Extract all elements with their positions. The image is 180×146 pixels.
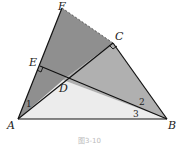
angle-label-2: 2: [139, 97, 145, 107]
label-E: E: [28, 56, 37, 69]
label-F: F: [57, 0, 66, 13]
angle-label-1: 1: [26, 99, 32, 109]
geometry-figure: F C E D A B 1 2 3 图3-10: [0, 0, 180, 146]
figure-caption: 图3-10: [78, 137, 101, 145]
label-D: D: [58, 82, 68, 95]
label-A: A: [6, 119, 15, 132]
angle-label-3: 3: [133, 109, 139, 119]
label-C: C: [115, 30, 124, 43]
label-B: B: [167, 119, 176, 132]
